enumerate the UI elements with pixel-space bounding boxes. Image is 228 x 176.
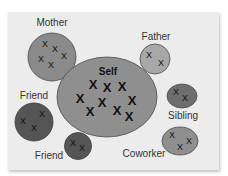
x-mark: X	[98, 95, 107, 110]
node-label-friend-2: Friend	[35, 150, 63, 161]
x-mark: X	[52, 44, 58, 54]
node-father: Father XX	[140, 31, 171, 74]
x-mark: X	[70, 138, 76, 148]
x-mark: X	[146, 50, 152, 60]
x-mark: X	[42, 39, 48, 49]
x-mark: X	[89, 77, 98, 92]
x-mark: X	[39, 109, 45, 119]
relationship-diagram: Mother XXXXX Father XX Self XXXXXXXXX Fr…	[0, 0, 228, 176]
x-mark: X	[20, 116, 26, 126]
x-mark: X	[177, 142, 183, 152]
x-mark: X	[38, 54, 44, 64]
x-mark: X	[48, 60, 54, 70]
x-mark: X	[31, 123, 37, 133]
x-mark: X	[79, 143, 85, 153]
x-mark: X	[76, 91, 85, 106]
x-mark: X	[103, 80, 112, 95]
node-label-friend-1: Friend	[20, 90, 48, 101]
node-label-coworker: Coworker	[123, 148, 166, 159]
x-mark: X	[173, 87, 179, 97]
circle-father	[140, 44, 170, 74]
node-label-father: Father	[142, 31, 172, 42]
x-mark: X	[186, 136, 192, 146]
node-sibling: Sibling XX	[167, 84, 198, 121]
x-mark: X	[118, 79, 127, 94]
node-label-self: Self	[99, 66, 118, 77]
x-mark: X	[169, 130, 175, 140]
x-mark: X	[158, 58, 164, 68]
x-mark: X	[125, 109, 134, 124]
x-mark: X	[61, 51, 67, 61]
x-mark: X	[113, 103, 122, 118]
x-mark: X	[86, 104, 95, 119]
node-self: Self XXXXXXXXX	[57, 57, 157, 137]
node-label-sibling: Sibling	[168, 110, 198, 121]
x-mark: X	[182, 93, 188, 103]
node-label-mother: Mother	[36, 17, 68, 28]
x-mark: X	[128, 93, 137, 108]
node-friend-1: Friend XXX	[15, 90, 53, 141]
node-coworker: Coworker XXX	[123, 127, 198, 159]
